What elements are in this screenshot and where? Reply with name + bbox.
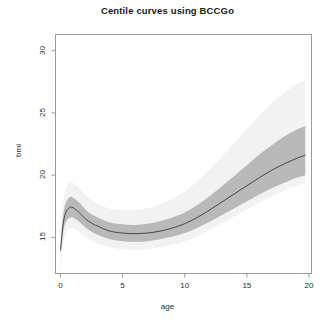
x-tick-label: 5 <box>111 281 135 290</box>
plot-area <box>0 0 335 326</box>
x-tick-label: 10 <box>173 281 197 290</box>
y-tick-label: 25 <box>37 100 46 124</box>
y-axis-title: bmi <box>14 121 23 181</box>
x-axis-title: age <box>0 302 335 311</box>
y-tick-label: 20 <box>37 163 46 187</box>
chart-figure: Centile curves using BCCGo 05101520 1520… <box>0 0 335 326</box>
y-tick-label: 15 <box>37 225 46 249</box>
x-tick-label: 20 <box>297 281 321 290</box>
x-tick-label: 0 <box>48 281 72 290</box>
x-tick-label: 15 <box>235 281 259 290</box>
y-tick-label: 30 <box>37 38 46 62</box>
